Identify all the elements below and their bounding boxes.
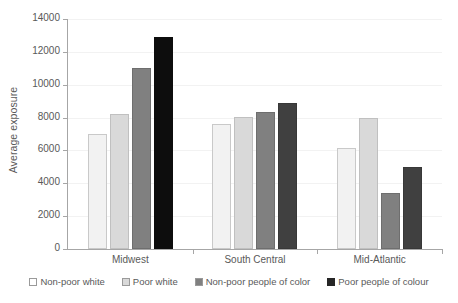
bar-group <box>317 19 442 249</box>
legend-swatch-icon <box>122 278 130 286</box>
y-tick-label: 2000 <box>22 210 60 220</box>
bar <box>256 112 275 249</box>
legend-item[interactable]: Poor people of colour <box>327 276 428 287</box>
y-tick-label: 8000 <box>22 112 60 122</box>
y-tick-label: 0 <box>22 243 60 253</box>
legend-swatch-icon <box>195 278 203 286</box>
y-tick-label: 14000 <box>22 13 60 23</box>
chart-legend: Non-poor whitePoor whiteNon-poor people … <box>0 276 458 287</box>
y-tick-mark <box>63 118 67 119</box>
y-tick-mark <box>63 150 67 151</box>
y-tick-mark <box>63 249 67 250</box>
bar-group <box>193 19 318 249</box>
y-tick-label: 4000 <box>22 177 60 187</box>
x-axis-category-label: Midwest <box>68 254 193 265</box>
bar-group-bars <box>193 19 318 249</box>
legend-swatch-icon <box>29 278 37 286</box>
bar <box>403 167 422 249</box>
x-axis-category-label: Mid-Atlantic <box>317 254 442 265</box>
y-tick-mark <box>63 19 67 20</box>
bar <box>110 114 129 249</box>
bar <box>212 124 231 249</box>
legend-item[interactable]: Poor white <box>122 276 178 287</box>
bar-group-bars <box>68 19 193 249</box>
bar <box>132 68 151 249</box>
y-axis-title-text: Average exposure <box>7 87 19 174</box>
legend-item[interactable]: Non-poor people of color <box>195 276 311 287</box>
y-tick-mark <box>63 85 67 86</box>
bar <box>359 118 378 249</box>
legend-item-label: Poor white <box>133 276 178 287</box>
y-tick-mark <box>63 216 67 217</box>
legend-item-label: Non-poor people of color <box>206 276 311 287</box>
bar <box>381 193 400 249</box>
x-axis-line <box>67 249 443 250</box>
bar-chart: Average exposure 02000400060008000100001… <box>0 0 458 303</box>
legend-item-label: Non-poor white <box>40 276 104 287</box>
y-tick-mark <box>63 183 67 184</box>
bar <box>337 148 356 249</box>
y-tick-label: 10000 <box>22 79 60 89</box>
legend-item-label: Poor people of colour <box>338 276 428 287</box>
bar <box>234 117 253 249</box>
y-tick-label: 12000 <box>22 46 60 56</box>
bar <box>154 37 173 249</box>
bar-group-bars <box>317 19 442 249</box>
x-axis-category-label: South Central <box>193 254 318 265</box>
bar-group <box>68 19 193 249</box>
y-axis-title: Average exposure <box>0 0 26 260</box>
bar <box>278 103 297 249</box>
x-axis-separator-tick <box>442 249 443 254</box>
x-axis-separator-tick <box>193 249 194 254</box>
legend-swatch-icon <box>327 278 335 286</box>
y-tick-mark <box>63 52 67 53</box>
x-axis-separator-tick <box>317 249 318 254</box>
y-tick-label: 6000 <box>22 144 60 154</box>
legend-item[interactable]: Non-poor white <box>29 276 104 287</box>
bar <box>88 134 107 249</box>
